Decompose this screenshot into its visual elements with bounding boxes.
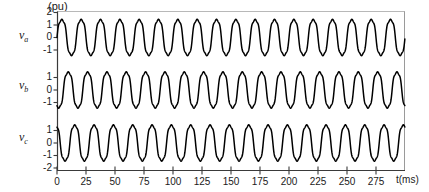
x-axis-title: t(ms) bbox=[396, 174, 419, 185]
ytick-label-v_a-3: -1 bbox=[24, 44, 52, 55]
xtick-label-11: 275 bbox=[356, 176, 396, 187]
ytick-label-v_a-0: 2 bbox=[24, 6, 52, 17]
waveform-figure: (pu) va vb vc 210-110-110-1-2 0255075100… bbox=[0, 0, 429, 192]
ytick-label-v_c-0: 1 bbox=[24, 124, 52, 135]
plot-canvas bbox=[0, 0, 429, 192]
waveform-trace-v_c bbox=[57, 125, 405, 161]
ytick-label-v_b-2: -1 bbox=[24, 96, 52, 107]
ytick-label-v_a-2: 0 bbox=[24, 31, 52, 42]
ytick-label-v_b-0: 1 bbox=[24, 71, 52, 82]
ytick-label-v_c-3: -2 bbox=[24, 162, 52, 173]
waveform-trace-v_b bbox=[57, 72, 405, 108]
ytick-label-v_c-1: 0 bbox=[24, 137, 52, 148]
waveform-trace-v_a bbox=[57, 19, 405, 55]
ytick-label-v_c-2: -1 bbox=[24, 149, 52, 160]
ytick-label-v_a-1: 1 bbox=[24, 19, 52, 30]
ytick-label-v_b-1: 0 bbox=[24, 84, 52, 95]
